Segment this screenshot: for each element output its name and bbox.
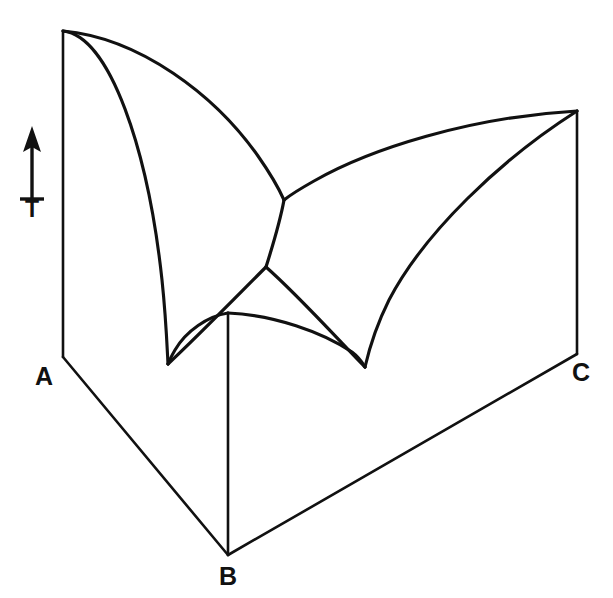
vertex-label-B: B (219, 562, 237, 590)
edge-B-C (228, 354, 577, 555)
vertex-labels: A B C (35, 358, 590, 590)
edge-A-B (63, 357, 228, 555)
liquidus-C-to-saddle-AC (284, 111, 577, 200)
axis-label-temperature: T (25, 196, 39, 222)
vertex-label-A: A (35, 362, 53, 390)
boundary-saddle-to-ternary-eutectic (266, 200, 284, 267)
ternary-phase-diagram: T A B (0, 0, 613, 598)
vertex-label-C: C (572, 358, 590, 386)
liquidus-A-to-eutectic-AB (63, 31, 168, 364)
temperature-axis: T (20, 126, 44, 222)
vertical-edges (63, 31, 577, 555)
boundary-ternary-eutectic-to-eutectic-BC (266, 267, 365, 367)
liquidus-A-to-saddle-AC (63, 31, 284, 200)
liquidus-curves (63, 31, 577, 367)
diagram-canvas: T A B (0, 0, 613, 598)
liquidus-B-to-eutectic-BC (228, 313, 365, 367)
base-edges (63, 354, 577, 555)
liquidus-C-to-eutectic-BC (365, 111, 577, 367)
